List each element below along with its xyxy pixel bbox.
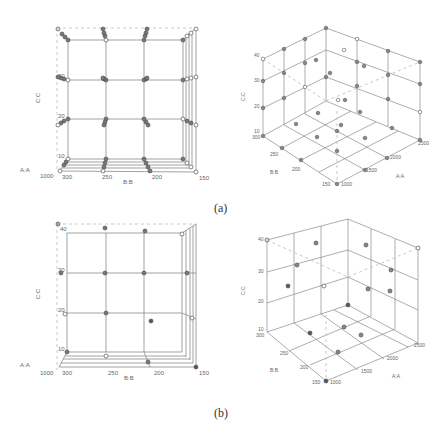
b-tick-250: 250 xyxy=(102,174,113,180)
b-tick-300: 300 xyxy=(256,332,265,338)
b-tick-200: 200 xyxy=(154,370,165,376)
caption-a: (a) xyxy=(214,201,227,216)
a-axis-label: A:A xyxy=(396,173,405,179)
b-tick-200: 200 xyxy=(300,364,309,370)
b-tick-300: 300 xyxy=(62,174,73,180)
c-tick-20: 20 xyxy=(58,307,65,313)
caption-b: (b) xyxy=(214,406,228,421)
b-tick-150: 150 xyxy=(312,379,321,385)
a-axis-label: A:A xyxy=(392,373,401,379)
a-tick-1000: 1000 xyxy=(341,181,352,187)
a-tick-2500: 2500 xyxy=(414,342,425,348)
c-tick-30: 30 xyxy=(58,73,65,79)
b-tick-250: 250 xyxy=(280,350,289,356)
chart-a-front: 10 20 30 300 250 200 150 1000 B:B A:A C:… xyxy=(0,0,220,190)
chart-a-iso: 40 30 20 10 300 250 200 150 1000 1500 20… xyxy=(220,0,447,190)
b-tick-250: 250 xyxy=(270,151,279,157)
chart-a-iso-svg: 40 30 20 10 300 250 200 150 1000 1500 20… xyxy=(220,0,447,190)
c-tick-30: 30 xyxy=(58,267,65,273)
c-tick-20: 20 xyxy=(58,113,65,119)
b-axis-label: B:B xyxy=(270,367,279,373)
a-axis-label: A:A xyxy=(20,167,30,173)
b-tick-300: 300 xyxy=(252,134,261,140)
c-tick-10: 10 xyxy=(58,346,65,352)
c-tick-30: 30 xyxy=(254,77,260,83)
b-tick-250: 250 xyxy=(108,370,119,376)
b-tick-150: 150 xyxy=(322,181,331,187)
a-tick-2000: 2000 xyxy=(387,355,398,361)
b-tick-150: 150 xyxy=(199,370,210,376)
b-axis-label: B:B xyxy=(123,179,133,185)
c-tick-40: 40 xyxy=(60,226,67,232)
b-tick-200: 200 xyxy=(292,166,301,172)
b-tick-300: 300 xyxy=(62,370,73,376)
b-axis-label: B:B xyxy=(270,169,279,175)
a-tick-2000: 2000 xyxy=(390,154,401,160)
a-tick-1500: 1500 xyxy=(366,167,377,173)
c-axis-label: C:C xyxy=(35,288,41,299)
c-tick-20: 20 xyxy=(258,298,264,304)
a-tick-1000: 1000 xyxy=(40,370,54,376)
a-axis-label: A:A xyxy=(20,362,30,368)
c-tick-40: 40 xyxy=(258,236,264,242)
a-tick-2500: 2500 xyxy=(418,140,429,146)
chart-a-front-svg: 10 20 30 300 250 200 150 1000 B:B A:A C:… xyxy=(0,0,220,190)
chart-b-iso: 40 30 20 10 300 250 200 150 1000 1500 20… xyxy=(220,215,447,395)
chart-b-front-svg: 40 30 20 10 300 250 200 150 1000 B:B A:A… xyxy=(0,215,220,395)
b-axis-label: B:B xyxy=(124,375,134,381)
a-tick-1500: 1500 xyxy=(361,368,372,374)
chart-b-iso-svg: 40 30 20 10 300 250 200 150 1000 1500 20… xyxy=(220,215,447,395)
b-tick-200: 200 xyxy=(152,174,163,180)
chart-b-front: 40 30 20 10 300 250 200 150 1000 B:B A:A… xyxy=(0,215,220,395)
c-tick-40: 40 xyxy=(254,52,260,58)
c-tick-30: 30 xyxy=(258,268,264,274)
c-axis-label: C:C xyxy=(240,92,246,101)
a-tick-1000: 1000 xyxy=(330,379,341,385)
c-axis-label: C:C xyxy=(35,92,41,103)
c-axis-label: C:C xyxy=(240,286,246,295)
a-tick-1000: 1000 xyxy=(40,173,54,179)
c-tick-10: 10 xyxy=(58,153,65,159)
b-tick-150: 150 xyxy=(199,175,210,181)
c-tick-20: 20 xyxy=(254,103,260,109)
